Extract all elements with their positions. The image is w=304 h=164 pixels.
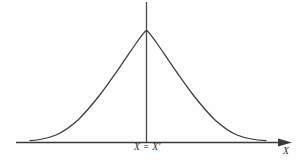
normal-distribution-figure: X = X′ X xyxy=(0,0,304,164)
normal-distribution-curve xyxy=(30,30,266,140)
plot-canvas xyxy=(0,0,304,164)
mean-marker-label: X = X′ xyxy=(134,143,161,153)
x-axis-label: X xyxy=(283,147,289,157)
